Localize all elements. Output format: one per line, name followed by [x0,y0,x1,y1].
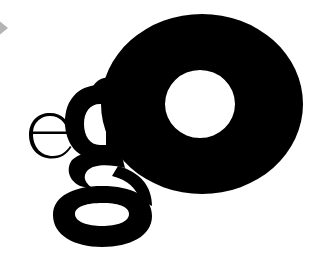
letter-o [101,14,303,194]
ego-logo [0,0,324,259]
grey-diamond-arrow-icon [0,20,8,36]
logo-canvas: ego [0,0,324,259]
